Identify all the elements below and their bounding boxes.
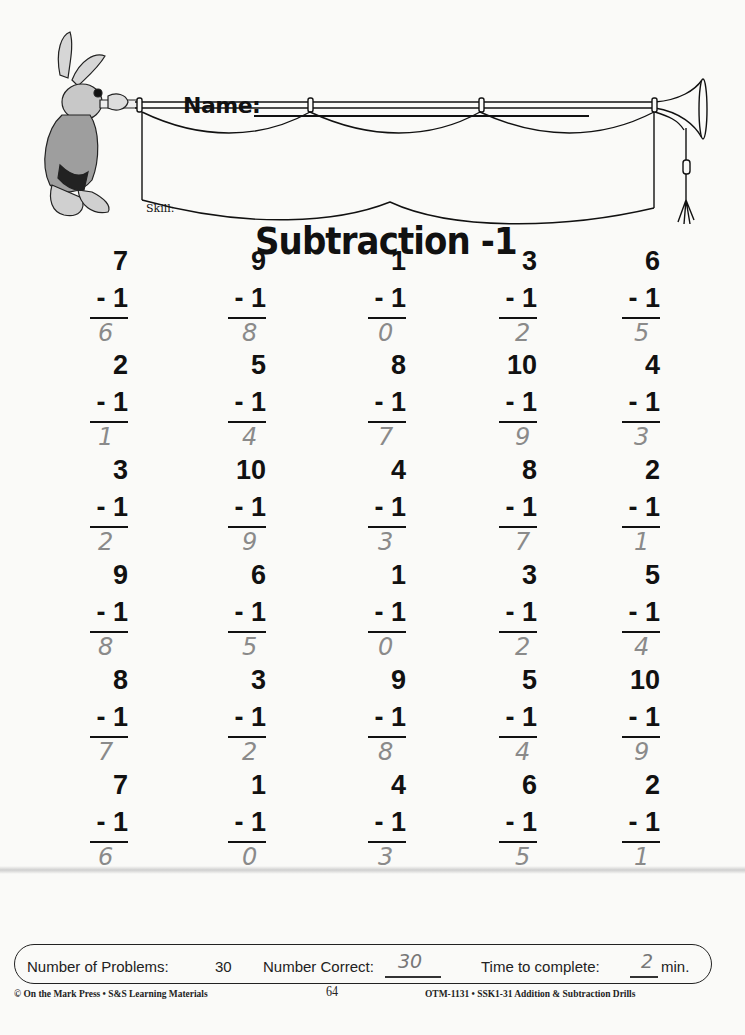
handwritten-answer[interactable]: 6 <box>98 319 113 347</box>
subtrahend: - 1 <box>505 807 537 837</box>
minuend: 9 <box>251 246 266 276</box>
subtrahend: - 1 <box>234 702 266 732</box>
skill-label: Skill: <box>146 202 174 215</box>
product-code: OTM-1131 • SSK1-31 Addition & Subtractio… <box>425 987 635 999</box>
minuend: 1 <box>391 560 406 590</box>
subtrahend: - 1 <box>374 702 406 732</box>
minuend: 9 <box>391 665 406 695</box>
worksheet-title: Subtraction -1 <box>255 220 517 263</box>
trumpet-banner-icon <box>0 0 745 240</box>
handwritten-answer[interactable]: 5 <box>634 319 649 347</box>
handwritten-answer[interactable]: 4 <box>634 633 649 661</box>
subtrahend: - 1 <box>628 807 660 837</box>
name-label: Name: <box>183 93 260 118</box>
handwritten-answer[interactable]: 0 <box>378 633 393 661</box>
worksheet-page: Name: Skill: Subtraction -1 7- 169- 181-… <box>0 0 745 1035</box>
subtrahend: - 1 <box>505 492 537 522</box>
handwritten-answer[interactable]: 5 <box>242 633 257 661</box>
minuend: 8 <box>522 455 537 485</box>
handwritten-answer[interactable]: 1 <box>634 528 649 556</box>
minuend: 3 <box>522 560 537 590</box>
handwritten-answer[interactable]: 9 <box>515 423 530 451</box>
minuend: 5 <box>251 350 266 380</box>
minuend: 8 <box>391 350 406 380</box>
minuend: 4 <box>391 770 406 800</box>
time-value[interactable]: 2 <box>641 950 653 972</box>
handwritten-answer[interactable]: 2 <box>515 319 530 347</box>
handwritten-answer[interactable]: 8 <box>98 633 113 661</box>
minuend: 4 <box>645 350 660 380</box>
correct-count-underline <box>385 976 441 978</box>
subtrahend: - 1 <box>374 597 406 627</box>
handwritten-answer[interactable]: 7 <box>378 423 393 451</box>
subtrahend: - 1 <box>628 283 660 313</box>
handwritten-answer[interactable]: 2 <box>242 738 257 766</box>
subtrahend: - 1 <box>96 597 128 627</box>
minuend: 6 <box>251 560 266 590</box>
subtrahend: - 1 <box>234 807 266 837</box>
subtrahend: - 1 <box>234 283 266 313</box>
handwritten-answer[interactable]: 9 <box>634 738 649 766</box>
publisher-credit: © On the Mark Press • S&S Learning Mater… <box>14 987 208 999</box>
handwritten-answer[interactable]: 7 <box>515 528 530 556</box>
minuend: 2 <box>113 350 128 380</box>
subtrahend: - 1 <box>628 387 660 417</box>
subtrahend: - 1 <box>96 492 128 522</box>
rabbit-mascot-icon <box>45 32 140 216</box>
minuend: 2 <box>645 770 660 800</box>
subtrahend: - 1 <box>374 492 406 522</box>
handwritten-answer[interactable]: 8 <box>242 319 257 347</box>
subtrahend: - 1 <box>374 807 406 837</box>
subtrahend: - 1 <box>234 492 266 522</box>
minuend: 7 <box>113 770 128 800</box>
page-number: 64 <box>326 984 338 1000</box>
subtrahend: - 1 <box>374 387 406 417</box>
subtrahend: - 1 <box>96 283 128 313</box>
minuend: 9 <box>113 560 128 590</box>
subtrahend: - 1 <box>96 387 128 417</box>
correct-count-label: Number Correct: <box>263 958 374 975</box>
subtrahend: - 1 <box>96 807 128 837</box>
problems-count-label: Number of Problems: <box>27 958 169 975</box>
subtrahend: - 1 <box>628 492 660 522</box>
correct-count-value[interactable]: 30 <box>398 950 422 972</box>
handwritten-answer[interactable]: 3 <box>378 528 393 556</box>
handwritten-answer[interactable]: 7 <box>98 738 113 766</box>
subtrahend: - 1 <box>505 387 537 417</box>
minuend: 10 <box>507 350 537 380</box>
subtrahend: - 1 <box>505 597 537 627</box>
minuend: 6 <box>645 246 660 276</box>
handwritten-answer[interactable]: 0 <box>378 319 393 347</box>
handwritten-answer[interactable]: 4 <box>515 738 530 766</box>
handwritten-answer[interactable]: 8 <box>378 738 393 766</box>
minuend: 10 <box>630 665 660 695</box>
handwritten-answer[interactable]: 4 <box>242 423 257 451</box>
subtrahend: - 1 <box>505 702 537 732</box>
handwritten-answer[interactable]: 9 <box>242 528 257 556</box>
subtrahend: - 1 <box>505 283 537 313</box>
time-underline <box>630 976 658 978</box>
minuend: 5 <box>645 560 660 590</box>
handwritten-answer[interactable]: 3 <box>634 423 649 451</box>
name-field-line[interactable] <box>254 115 589 117</box>
minuend: 3 <box>251 665 266 695</box>
minuend: 7 <box>113 246 128 276</box>
problems-count-value: 30 <box>215 958 232 975</box>
subtrahend: - 1 <box>628 597 660 627</box>
minuend: 2 <box>645 455 660 485</box>
subtrahend: - 1 <box>628 702 660 732</box>
handwritten-answer[interactable]: 2 <box>515 633 530 661</box>
subtrahend: - 1 <box>234 387 266 417</box>
summary-box: Number of Problems: 30 Number Correct: 3… <box>14 944 712 984</box>
page-fold-shadow <box>0 866 745 874</box>
subtrahend: - 1 <box>234 597 266 627</box>
handwritten-answer[interactable]: 1 <box>98 423 113 451</box>
minuend: 4 <box>391 455 406 485</box>
time-label: Time to complete: <box>481 958 600 975</box>
minuend: 1 <box>251 770 266 800</box>
minuend: 6 <box>522 770 537 800</box>
handwritten-answer[interactable]: 2 <box>98 528 113 556</box>
minuend: 3 <box>522 246 537 276</box>
time-unit: min. <box>661 958 689 975</box>
subtrahend: - 1 <box>374 283 406 313</box>
